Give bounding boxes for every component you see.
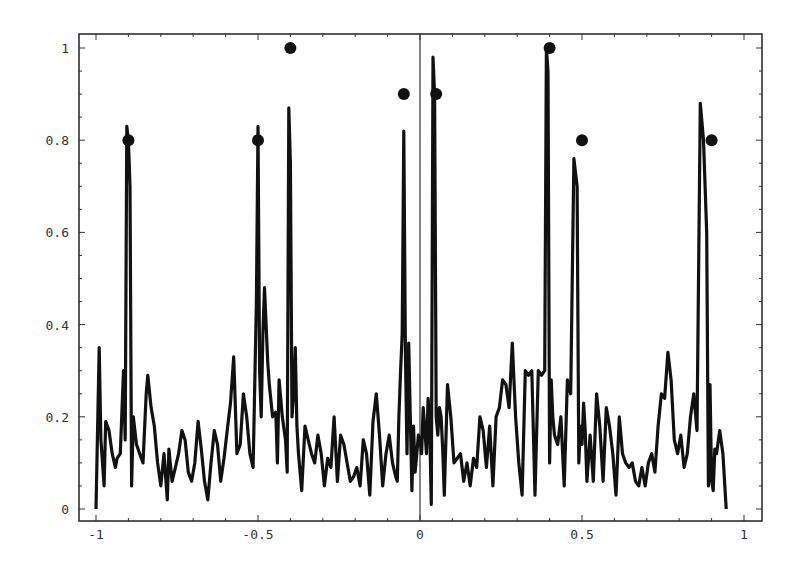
target-point	[576, 134, 588, 146]
x-axis-tick-labels: -1-0.500.51	[88, 527, 748, 542]
x-tick-label: -1	[88, 527, 104, 542]
y-tick-label: 0	[61, 502, 69, 517]
x-tick-label: 0.5	[570, 527, 593, 542]
y-tick-label: 0.6	[46, 225, 69, 240]
x-tick-label: 0	[416, 527, 424, 542]
y-tick-label: 1	[61, 41, 69, 56]
noisy-signal-line	[96, 48, 726, 509]
y-tick-label: 0.4	[46, 318, 70, 333]
target-point	[706, 134, 718, 146]
line-chart: -1-0.500.51 00.20.40.60.81	[0, 0, 800, 569]
target-point	[122, 134, 134, 146]
target-point	[398, 88, 410, 100]
x-tick-label: 1	[740, 527, 748, 542]
target-point	[252, 134, 264, 146]
target-point	[430, 88, 442, 100]
x-tick-label: -0.5	[242, 527, 273, 542]
y-tick-label: 0.8	[46, 133, 69, 148]
target-point	[544, 42, 556, 54]
y-tick-label: 0.2	[46, 410, 69, 425]
y-axis-tick-labels: 00.20.40.60.81	[46, 41, 70, 517]
target-point	[284, 42, 296, 54]
